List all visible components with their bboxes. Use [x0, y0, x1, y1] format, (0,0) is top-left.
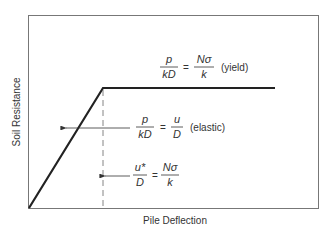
- svg-text:kD: kD: [138, 128, 152, 140]
- svg-text:p: p: [141, 113, 148, 125]
- svg-text:=: =: [183, 62, 189, 73]
- deflection-equation: u* D = Nσ k: [133, 161, 179, 188]
- yield-equation: p kD = Nσ k (yield): [160, 53, 248, 80]
- svg-text:kD: kD: [162, 68, 176, 80]
- svg-text:Nσ: Nσ: [163, 161, 178, 173]
- svg-text:D: D: [136, 176, 144, 188]
- svg-text:k: k: [167, 176, 173, 188]
- svg-text:=: =: [152, 170, 158, 181]
- svg-text:(elastic): (elastic): [190, 122, 225, 133]
- svg-text:Nσ: Nσ: [197, 53, 212, 65]
- svg-text:=: =: [160, 122, 166, 133]
- resistance-curve: [29, 88, 275, 208]
- x-axis-label: Pile Deflection: [143, 215, 207, 226]
- plot-frame: [29, 16, 319, 209]
- svg-text:(yield): (yield): [221, 62, 248, 73]
- diagram-canvas: p kD = Nσ k (yield) p kD = u D (elastic)…: [0, 0, 336, 230]
- svg-text:u: u: [174, 113, 180, 125]
- svg-text:p: p: [165, 53, 172, 65]
- y-axis-label: Soil Resistance: [11, 77, 22, 146]
- elastic-equation: p kD = u D (elastic): [136, 113, 225, 140]
- svg-text:D: D: [173, 128, 181, 140]
- svg-text:u*: u*: [135, 161, 146, 173]
- svg-text:k: k: [201, 68, 207, 80]
